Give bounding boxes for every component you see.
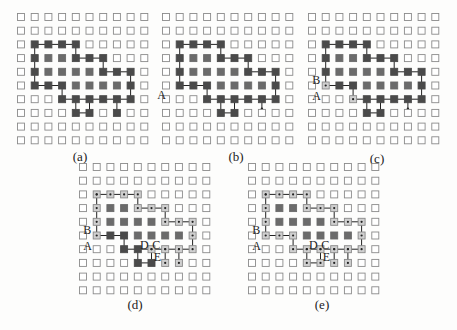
- grid-cell-empty: [162, 273, 169, 280]
- grid-cell-empty: [45, 14, 52, 21]
- grid-cell-empty: [391, 123, 398, 130]
- grid-cell-boundary: [31, 82, 38, 89]
- grid-cell-empty: [127, 14, 134, 21]
- grid-cell-boundary: [100, 68, 107, 75]
- grid-cell-boundary: [59, 96, 66, 103]
- figure: (a)A(b)BA(c)BADCE(d)BADCE(e): [0, 0, 457, 330]
- grid-cell-empty: [404, 109, 411, 116]
- grid-cell-empty: [363, 137, 370, 144]
- path-node: [333, 221, 335, 223]
- grid-cell-empty: [358, 287, 365, 294]
- grid-cell-empty: [59, 137, 66, 144]
- grid-cell-boundary: [217, 55, 224, 62]
- grid-cell-empty: [127, 109, 134, 116]
- grid-cell-empty: [190, 123, 197, 130]
- point-label: E: [323, 250, 330, 264]
- grid-cell-empty: [217, 14, 224, 21]
- grid-cell-empty: [258, 55, 265, 62]
- grid-cell-interior: [86, 82, 93, 89]
- grid-cell-boundary: [190, 82, 197, 89]
- grid-cell-empty: [107, 259, 114, 266]
- path-edge: [35, 44, 76, 99]
- grid-cell-empty: [258, 123, 265, 130]
- grid-cell-empty: [163, 123, 170, 130]
- grid-cell-empty: [322, 109, 329, 116]
- grid-cell-interior: [331, 232, 338, 239]
- grid-cell-empty: [204, 137, 211, 144]
- grid-cell-boundary: [59, 41, 66, 48]
- grid-cell-boundary: [391, 68, 398, 75]
- grid-cell-boundary: [322, 41, 329, 48]
- point-label: D: [309, 238, 318, 252]
- grid-cell-boundary: [107, 232, 114, 239]
- grid-cell-interior: [258, 82, 265, 89]
- grid-cell-empty: [249, 205, 256, 212]
- grid-cell-boundary: [176, 41, 183, 48]
- grid-cell-empty: [176, 109, 183, 116]
- grid-cell-empty: [258, 27, 265, 34]
- grid-cell-empty: [203, 273, 210, 280]
- path-node: [96, 221, 98, 223]
- grid-cell-boundary: [336, 41, 343, 48]
- grid-cell-empty: [175, 205, 182, 212]
- grid-cell-boundary: [59, 82, 66, 89]
- grid-cell-empty: [363, 27, 370, 34]
- path-edge: [180, 44, 221, 99]
- grid-cell-interior: [303, 218, 310, 225]
- grid-cell-empty: [245, 123, 252, 130]
- grid-cell-empty: [336, 14, 343, 21]
- grid-cell-empty: [80, 273, 87, 280]
- grid-cell-interior: [391, 82, 398, 89]
- grid-cell-empty: [93, 273, 100, 280]
- grid-cell-empty: [189, 191, 196, 198]
- grid-cell-empty: [336, 27, 343, 34]
- point-label: B: [312, 73, 320, 87]
- grid-cell-boundary: [363, 55, 370, 62]
- grid-cell-empty: [262, 164, 269, 171]
- grid-cell-empty: [377, 27, 384, 34]
- point-label: B: [252, 223, 260, 237]
- grid-cell-boundary: [258, 68, 265, 75]
- grid-cell-empty: [86, 123, 93, 130]
- grid-cell-empty: [317, 273, 324, 280]
- grid-cell-interior: [217, 68, 224, 75]
- grid-cell-empty: [363, 123, 370, 130]
- path-node: [192, 248, 194, 250]
- grid-cell-empty: [309, 123, 316, 130]
- grid-cell-empty: [276, 287, 283, 294]
- grid-cell-empty: [418, 137, 425, 144]
- grid-cell-interior: [72, 68, 79, 75]
- grid-cell-empty: [245, 109, 252, 116]
- grid-cell-empty: [249, 177, 256, 184]
- grid-cell-interior: [317, 218, 324, 225]
- grid-cell-empty: [391, 137, 398, 144]
- grid-cell-empty: [432, 14, 439, 21]
- grid-cell-empty: [31, 137, 38, 144]
- grid-cell-empty: [113, 137, 120, 144]
- grid-cell-empty: [391, 109, 398, 116]
- grid-cell-empty: [176, 137, 183, 144]
- grid-cell-empty: [107, 177, 114, 184]
- grid-cell-empty: [31, 109, 38, 116]
- grid-cell-empty: [432, 27, 439, 34]
- path-node: [361, 221, 363, 223]
- grid-cell-empty: [303, 164, 310, 171]
- grid-cell-interior: [148, 218, 155, 225]
- grid-diagram: (a)A(b)BA(c)BADCE(d)BADCE(e): [0, 0, 457, 330]
- grid-cell-empty: [372, 287, 379, 294]
- grid-cell-interior: [344, 232, 351, 239]
- grid-cell-empty: [134, 273, 141, 280]
- grid-cell-empty: [249, 259, 256, 266]
- grid-cell-empty: [272, 55, 279, 62]
- grid-cell-empty: [262, 246, 269, 253]
- path-node: [265, 207, 267, 209]
- grid-cell-empty: [377, 14, 384, 21]
- grid-cell-empty: [358, 177, 365, 184]
- grid-cell-empty: [358, 205, 365, 212]
- grid-cell-empty: [86, 137, 93, 144]
- grid-cell-empty: [231, 137, 238, 144]
- grid-cell-empty: [317, 164, 324, 171]
- grid-cell-empty: [391, 27, 398, 34]
- grid-cell-boundary: [377, 96, 384, 103]
- grid-cell-boundary: [121, 246, 128, 253]
